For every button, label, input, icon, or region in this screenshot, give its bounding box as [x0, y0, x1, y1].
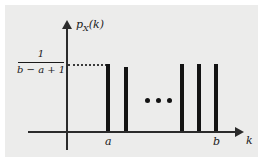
dotted-guide-line	[68, 64, 107, 66]
bar-a-plus-1	[124, 67, 128, 131]
bar-b-minus-1	[197, 64, 201, 131]
x-tick-label-a: a	[105, 136, 112, 147]
ellipsis-dot-3	[167, 98, 172, 103]
y-axis-arrow-icon	[62, 20, 72, 29]
y-axis-label-argument: (k)	[89, 18, 104, 31]
y-axis-line	[66, 28, 68, 150]
fraction-numerator: 1	[17, 48, 65, 62]
y-axis-label-base: p	[76, 18, 83, 31]
y-axis-label: pX(k)	[76, 19, 104, 33]
bar-b-minus-2	[180, 64, 184, 131]
x-tick-label-b: b	[213, 136, 220, 147]
ellipsis-dot-1	[145, 98, 150, 103]
x-axis-label: k	[246, 135, 253, 146]
ellipsis-dots-icon	[145, 98, 172, 103]
x-axis-arrow-icon	[235, 127, 244, 137]
figure-root: pX(k) k a b 1 b − a + 1	[0, 0, 265, 162]
fraction-denominator: b − a + 1	[17, 63, 65, 77]
plot-panel: pX(k) k a b 1 b − a + 1	[5, 5, 258, 157]
bar-a	[106, 64, 110, 131]
x-axis-line	[28, 131, 240, 133]
bar-b	[214, 64, 218, 131]
ellipsis-dot-2	[156, 98, 161, 103]
y-tick-label-height: 1 b − a + 1	[17, 48, 65, 76]
